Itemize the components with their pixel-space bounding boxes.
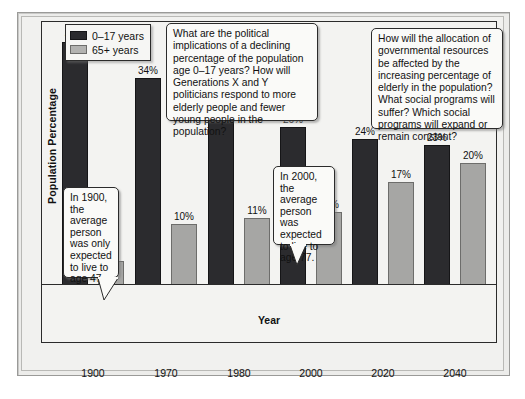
legend-label-elderly: 65+ years [92, 44, 138, 56]
x-tick-1900: 1900 [63, 367, 123, 379]
bar-value-label-1970-young: 34% [128, 65, 168, 76]
legend-item-elderly: 65+ years [70, 43, 144, 56]
legend-item-young: 0–17 years [70, 29, 144, 42]
bar-value-label-2040-elderly: 20% [453, 150, 493, 161]
bar-value-label-1980-elderly: 11% [237, 205, 277, 216]
legend-label-young: 0–17 years [92, 30, 144, 42]
bar-value-label-2020-elderly: 17% [381, 169, 421, 180]
callout-political-implications: What are the political implications of a… [166, 23, 318, 121]
callout-life-expectancy-2000: In 2000, the average person was expected… [273, 166, 335, 245]
x-tick-2040: 2040 [425, 367, 485, 379]
bar-1980-young [208, 115, 234, 285]
bar-1970-elderly [171, 224, 197, 285]
x-tick-2020: 2020 [353, 367, 413, 379]
light-swatch-icon [70, 45, 87, 54]
x-tick-1980: 1980 [209, 367, 269, 379]
chart-figure: Population Percentage 40%4%34%10%28%11%2… [0, 0, 525, 399]
bar-2040-young [424, 145, 450, 285]
x-axis-title: Year [42, 314, 496, 326]
bar-1970-young [135, 78, 161, 285]
x-tick-2000: 2000 [281, 367, 341, 379]
callout-life-expectancy-1900: In 1900, the average person was only exp… [63, 187, 119, 278]
x-tick-1970: 1970 [136, 367, 196, 379]
bar-value-label-1970-elderly: 10% [164, 211, 204, 222]
legend: 0–17 years 65+ years [65, 24, 151, 61]
callout-governmental-resources: How will the allocation of governmental … [371, 28, 503, 129]
bar-2040-elderly [460, 163, 486, 285]
x-axis-baseline [42, 284, 496, 285]
bar-2020-young [352, 139, 378, 285]
plot-area: Population Percentage 40%4%34%10%28%11%2… [41, 21, 497, 343]
bar-1980-elderly [244, 218, 270, 285]
dark-swatch-icon [70, 31, 87, 40]
bar-2020-elderly [388, 182, 414, 285]
